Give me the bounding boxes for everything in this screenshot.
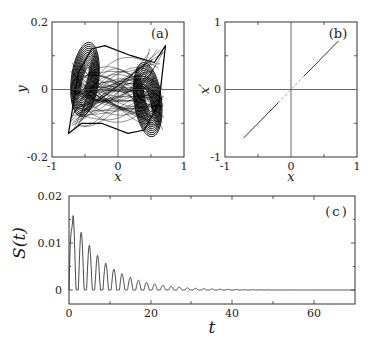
x-tick-label: 40 [225,307,239,320]
y-tick-label: 0.01 [38,237,63,250]
s-t-curve [69,216,355,290]
y-axis-label: x′ [197,84,212,94]
y-tick-label: 0 [55,284,62,297]
x-tick-label: 60 [307,307,321,320]
y-tick-label: 0 [41,83,48,96]
y-tick-label: 1 [214,16,221,29]
panel-label: (c) [325,204,348,219]
plot-frame [69,196,355,304]
panel-a: 0.2 0 -0.2 -1 0 1 x y (a) [14,16,188,184]
y-axis-label: y [14,85,29,94]
y-tick-label: 0.2 [31,16,49,29]
y-tick-label: -0.2 [27,151,48,164]
x-axis-label: t [209,317,216,337]
panel-label: (b) [329,26,347,41]
x-axis-label: x [287,169,295,184]
x-axis-label: x [114,169,122,184]
axis-ticks [69,196,355,304]
panel-b: 1 0 -1 -1 0 1 x x′ (b) [197,16,361,184]
panel-c: 0.02 0.01 0 0 20 40 60 t S(t) (c) [9,190,355,337]
x-tick-label: 1 [354,160,361,173]
y-tick-label: 0 [214,83,221,96]
x-tick-label: 0 [66,307,73,320]
y-tick-label: 0.02 [38,190,63,203]
x-tick-label: -1 [47,160,58,173]
figure: 0.2 0 -0.2 -1 0 1 x y (a) 1 0 -1 -1 0 1 … [0,0,373,349]
y-axis-label: S(t) [9,227,29,259]
x-tick-label: 1 [181,160,188,173]
x-tick-label: -1 [220,160,231,173]
panel-label: (a) [151,26,169,41]
x-tick-label: 20 [144,307,158,320]
